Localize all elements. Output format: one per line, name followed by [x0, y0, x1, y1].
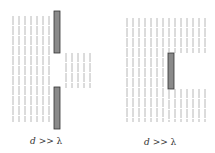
- caption-right-var: d: [144, 137, 150, 147]
- barrier-top: [54, 11, 60, 53]
- caption-right: d >> λ: [144, 137, 176, 147]
- caption-left-rel: >>: [39, 136, 54, 146]
- caption-left: d >> λ: [30, 136, 62, 146]
- barrier-bottom: [54, 87, 60, 129]
- wavefronts-right: [127, 18, 205, 122]
- obstacle: [168, 53, 174, 89]
- caption-right-sym: λ: [171, 137, 177, 147]
- caption-right-rel: >>: [153, 137, 168, 147]
- caption-left-sym: λ: [57, 136, 63, 146]
- transmitted-wavefronts-left: [66, 53, 90, 88]
- caption-left-var: d: [30, 136, 36, 146]
- incident-wavefronts-left: [13, 16, 49, 122]
- diagram-canvas: [0, 0, 215, 153]
